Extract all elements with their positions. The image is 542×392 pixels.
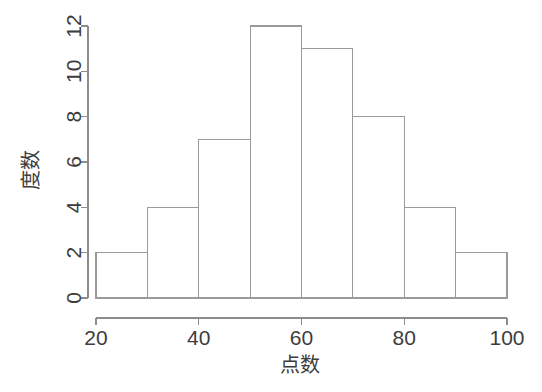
y-axis-tick-label: 4 <box>62 201 85 213</box>
y-axis-title: 度数 <box>19 150 43 190</box>
y-axis-tick-label: 2 <box>62 247 85 259</box>
x-axis-tick-label: 40 <box>187 326 210 349</box>
x-axis-title: 点数 <box>280 353 320 377</box>
histogram-bar <box>199 139 250 298</box>
y-axis-tick-label: 10 <box>62 60 85 83</box>
histogram-canvas: 024681012 20406080100 度数 点数 <box>0 0 542 392</box>
x-axis-tick-label: 60 <box>290 326 313 349</box>
histogram-plot: 024681012 20406080100 度数 点数 <box>0 0 542 392</box>
histogram-bar <box>96 253 147 298</box>
histogram-bar <box>456 253 507 298</box>
histogram-bar <box>353 117 404 298</box>
histogram-bar <box>147 207 198 298</box>
y-axis-tick-label: 0 <box>62 292 85 304</box>
x-axis-tick-label: 20 <box>84 326 107 349</box>
y-axis-tick-label: 12 <box>62 14 85 37</box>
x-axis-tick-label: 80 <box>393 326 416 349</box>
x-axis-tick-label: 100 <box>489 326 524 349</box>
histogram-bar <box>404 207 455 298</box>
histogram-bar <box>302 49 353 298</box>
y-axis-tick-label: 6 <box>62 156 85 168</box>
histogram-bar <box>250 26 301 298</box>
y-axis-tick-label: 8 <box>62 111 85 123</box>
